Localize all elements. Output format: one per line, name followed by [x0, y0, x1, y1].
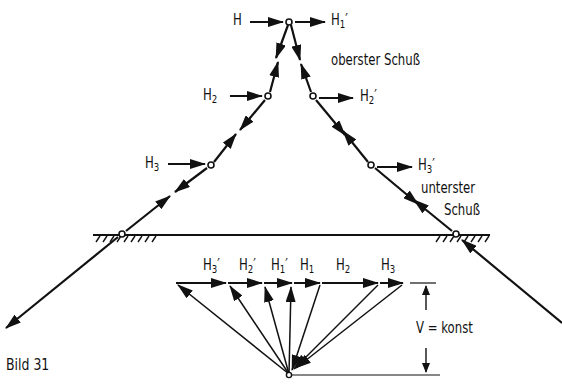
label-H2-prime: H2′ [360, 89, 377, 106]
polygon-label-H2: H2 [336, 258, 350, 275]
figure-caption: Bild 31 [6, 357, 49, 373]
label-oberster-schuss: oberster Schuß [331, 53, 420, 68]
pole-node [286, 372, 291, 377]
node-right-ground [453, 231, 459, 237]
node-right-2 [310, 93, 316, 99]
figure-bild-31: H H1′ oberster Schuß H2 H2′ H3 H3′ unter… [0, 0, 562, 390]
label-H1-prime: H1′ [331, 13, 348, 30]
polygon-label-H1-prime: H1′ [271, 258, 288, 275]
label-unterster: unterster [421, 181, 475, 196]
label-H3-prime: H3′ [418, 158, 435, 175]
node-left-ground [119, 231, 125, 237]
label-schuss: Schuß [444, 203, 480, 218]
polygon-rays [178, 285, 402, 374]
polygon-label-H1: H1 [300, 258, 314, 275]
ground-hatching-left [96, 236, 156, 242]
label-H: H [233, 13, 242, 28]
node-right-3 [368, 162, 374, 168]
diagram-canvas [0, 0, 562, 390]
label-v-konst: V = konst [416, 321, 473, 336]
node-left-3 [208, 162, 214, 168]
force-polygon [176, 283, 440, 378]
polygon-label-H2-prime: H2′ [239, 258, 256, 275]
label-H3: H3 [145, 156, 159, 173]
label-H2: H2 [203, 88, 217, 105]
polygon-label-H3: H3 [381, 258, 395, 275]
node-top [286, 19, 292, 25]
node-left-2 [265, 93, 271, 99]
ground-support [93, 235, 490, 242]
polygon-label-H3-prime: H3′ [203, 258, 220, 275]
